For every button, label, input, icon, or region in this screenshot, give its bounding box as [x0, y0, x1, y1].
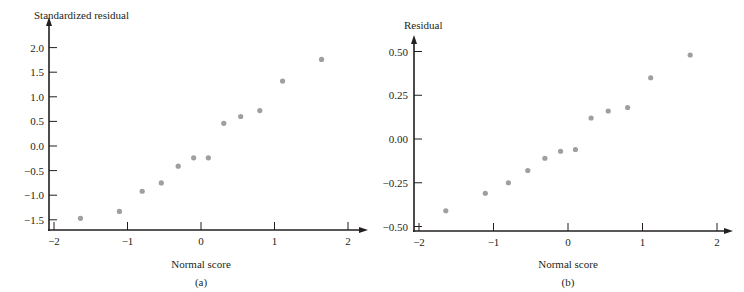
- x-tick-label: 0: [565, 236, 571, 248]
- y-tick-label: 0.5: [30, 115, 44, 127]
- x-tick-label: −1: [488, 236, 500, 248]
- x-tick-label: −2: [413, 236, 425, 248]
- data-point: [648, 75, 653, 80]
- x-axis-arrow-icon: [724, 228, 733, 234]
- data-point: [238, 114, 243, 119]
- chart-a-plot: Standardized residual−1.5−1.0−0.50.00.51…: [0, 0, 372, 292]
- y-tick-label: −0.5: [24, 165, 44, 177]
- data-point: [221, 121, 226, 126]
- data-point: [506, 180, 511, 185]
- data-point: [443, 208, 448, 213]
- data-point: [159, 180, 164, 185]
- chart-a: Standardized residual−1.5−1.0−0.50.00.51…: [0, 0, 372, 292]
- y-tick-label: −0.50: [383, 221, 409, 233]
- data-point: [257, 108, 262, 113]
- data-point: [117, 209, 122, 214]
- y-tick-label: 0.00: [389, 133, 409, 145]
- data-point: [319, 57, 324, 62]
- y-tick-label: 1.5: [30, 66, 44, 78]
- data-point: [688, 52, 693, 57]
- data-point: [483, 191, 488, 196]
- x-tick-label: 1: [272, 235, 278, 247]
- data-point: [191, 155, 196, 160]
- x-tick-label: −1: [122, 235, 134, 247]
- y-tick-label: −1.5: [24, 214, 44, 226]
- x-tick-label: 2: [714, 236, 720, 248]
- y-tick-label: −1.0: [24, 189, 44, 201]
- chart-b-plot: Residual−0.50−0.250.000.250.50−2−1012Nor…: [372, 0, 744, 292]
- x-tick-label: 0: [198, 235, 204, 247]
- x-tick-label: −2: [48, 235, 60, 247]
- data-point: [542, 156, 547, 161]
- data-point: [140, 189, 145, 194]
- y-axis-label: Residual: [404, 19, 443, 31]
- data-point: [573, 147, 578, 152]
- data-point: [606, 108, 611, 113]
- x-axis-arrow-icon: [359, 227, 368, 233]
- y-tick-label: 0.0: [30, 140, 44, 152]
- y-tick-label: 0.25: [389, 89, 409, 101]
- data-point: [588, 115, 593, 120]
- panel-label: (b): [562, 276, 575, 289]
- x-tick-label: 2: [345, 235, 351, 247]
- y-axis-label: Standardized residual: [34, 9, 129, 21]
- x-axis-label: Normal score: [171, 258, 231, 270]
- data-point: [525, 168, 530, 173]
- panel-label: (a): [195, 276, 208, 289]
- chart-b: Residual−0.50−0.250.000.250.50−2−1012Nor…: [372, 0, 744, 292]
- x-tick-label: 1: [640, 236, 646, 248]
- y-axis-arrow-icon: [411, 35, 417, 44]
- data-point: [280, 78, 285, 83]
- x-axis-label: Normal score: [538, 258, 598, 270]
- y-tick-label: 0.50: [389, 46, 409, 58]
- y-tick-label: 2.0: [30, 42, 44, 54]
- data-point: [625, 105, 630, 110]
- data-point: [78, 216, 83, 221]
- data-point: [206, 155, 211, 160]
- data-point: [558, 149, 563, 154]
- y-tick-label: 1.0: [30, 91, 44, 103]
- y-tick-label: −0.25: [383, 177, 409, 189]
- data-point: [176, 164, 181, 169]
